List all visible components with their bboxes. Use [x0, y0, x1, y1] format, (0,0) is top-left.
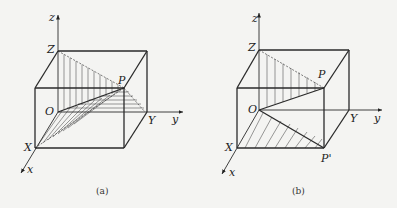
y-axis-label-b: y — [373, 112, 381, 125]
hatch-oxp-prime — [245, 113, 322, 148]
Z-label: Z — [46, 43, 55, 56]
P-label-b: P — [317, 68, 326, 81]
z-axis-label: z — [48, 11, 55, 24]
caption-b: (b) — [292, 186, 305, 196]
x-axis-label-b: x — [229, 166, 236, 179]
dashed-zp-b — [259, 50, 324, 88]
X-label-b: X — [224, 141, 234, 154]
panel-a: z Z P O Y y X x (a) — [21, 11, 183, 196]
O-label: O — [45, 105, 54, 118]
y-axis-label: y — [171, 113, 179, 126]
z-axis-label-b: z — [251, 12, 258, 25]
dashed-zp — [58, 51, 124, 88]
Y-label-b: Y — [350, 112, 359, 125]
caption-a: (a) — [96, 186, 108, 196]
P-prime-label: P' — [320, 152, 331, 165]
box-b — [237, 50, 349, 148]
panel-b: z Z P O Y y X P' x (b) — [222, 12, 382, 196]
box-a — [35, 51, 147, 148]
hatch-ozp — [64, 54, 118, 110]
P-label: P — [117, 74, 126, 87]
Y-label: Y — [148, 114, 157, 127]
coordinate-boxes-figure: z Z P O Y y X x (a) — [0, 0, 397, 208]
X-label: X — [23, 141, 33, 154]
Z-label-b: Z — [247, 41, 256, 54]
x-axis-label: x — [27, 163, 34, 176]
dashed-xp — [35, 88, 124, 148]
O-label-b: O — [248, 103, 257, 116]
diagram-canvas: z Z P O Y y X x (a) — [0, 0, 397, 208]
